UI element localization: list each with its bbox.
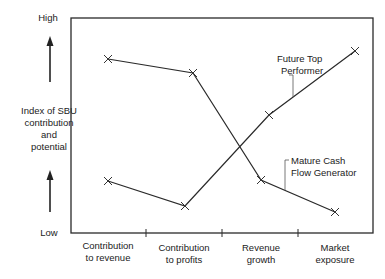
callout-leader-future-top	[289, 75, 293, 97]
up-arrow-icon	[47, 36, 54, 82]
series-future-top-performer	[108, 51, 355, 206]
plot-frame	[71, 18, 373, 233]
x-marker-icon	[181, 202, 189, 210]
chart-canvas	[0, 0, 385, 279]
x-marker-icon	[104, 177, 112, 185]
x-marker-icon	[351, 47, 359, 55]
callout-leader-mature-cash	[285, 160, 289, 190]
series-mature-cash-flow	[108, 59, 335, 212]
up-arrow-icon	[47, 170, 54, 212]
data-markers	[104, 47, 359, 216]
x-marker-icon	[265, 111, 273, 119]
x-marker-icon	[331, 208, 339, 216]
x-marker-icon	[257, 176, 265, 184]
